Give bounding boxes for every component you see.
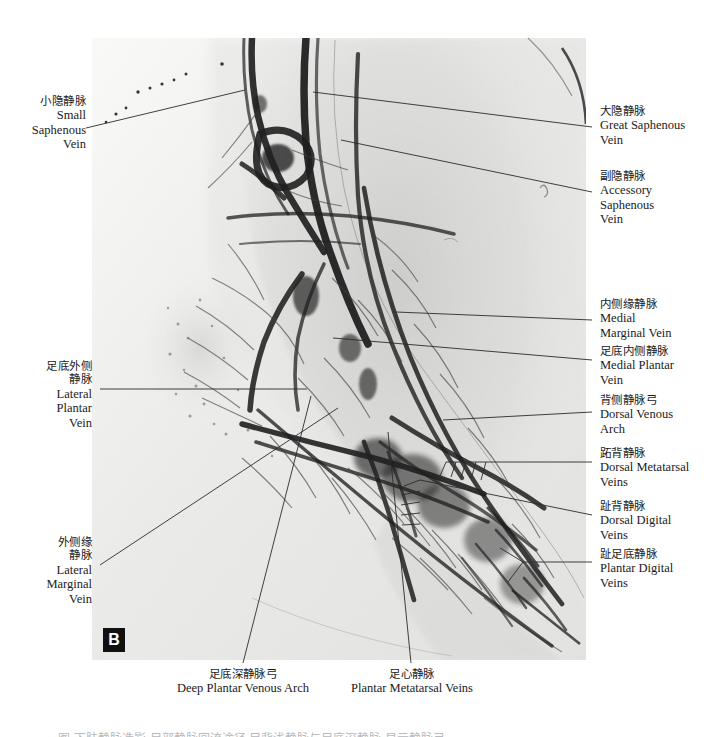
label-medial-plantar: 足底内侧静脉 Medial Plantar Vein [600, 345, 712, 387]
venogram-image [92, 38, 586, 660]
label-small-saphenous: 小隐静脉 Small Saphenous Vein [0, 95, 86, 152]
label-lateral-plantar: 足底外侧 静脉 Lateral Plantar Vein [0, 360, 92, 430]
label-dorsal-metatarsal: 跖背静脉 Dorsal Metatarsal Veins [600, 447, 712, 489]
venogram-radiograph [92, 38, 586, 660]
label-accessory-saphenous: 副隐静脉 Accessory Saphenous Vein [600, 170, 712, 227]
label-medial-marginal: 内侧缘静脉 Medial Marginal Vein [600, 298, 712, 340]
label-deep-plantar-arch: 足底深静脉弓 Deep Plantar Venous Arch [150, 668, 336, 696]
label-dorsal-venous-arch: 背侧静脉弓 Dorsal Venous Arch [600, 394, 712, 436]
label-great-saphenous: 大隐静脉 Great Saphenous Vein [600, 105, 712, 147]
panel-letter-b: B [103, 628, 125, 652]
label-lateral-marginal: 外侧缘 静脉 Lateral Marginal Vein [0, 536, 92, 606]
cropped-figure-caption: 图 下肢静脉造影 足部静脉回流途径 足背浅静脉与足底深静脉 显示静脉弓 [0, 729, 712, 737]
label-dorsal-digital: 趾背静脉 Dorsal Digital Veins [600, 500, 712, 542]
label-plantar-metatarsal: 足心静脉 Plantar Metatarsal Veins [328, 668, 496, 696]
label-plantar-digital: 趾足底静脉 Plantar Digital Veins [600, 548, 712, 590]
